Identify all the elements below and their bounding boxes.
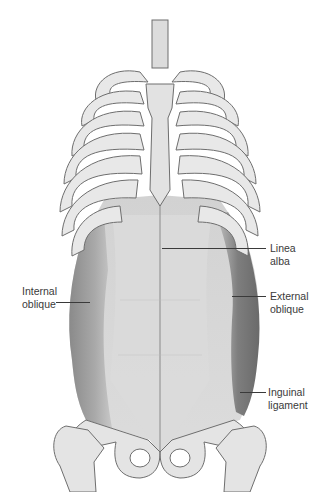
label-internal-oblique: Internal oblique [22,285,57,310]
external-oblique-leader [232,296,266,297]
label-inguinal-ligament: Inguinal ligament [268,386,308,411]
linea-alba-leader [162,248,266,249]
internal-oblique-leader [56,302,90,303]
label-linea-alba: Linea alba [270,242,296,267]
inguinal-ligament-leader [240,392,266,393]
label-external-oblique: External oblique [270,290,309,315]
